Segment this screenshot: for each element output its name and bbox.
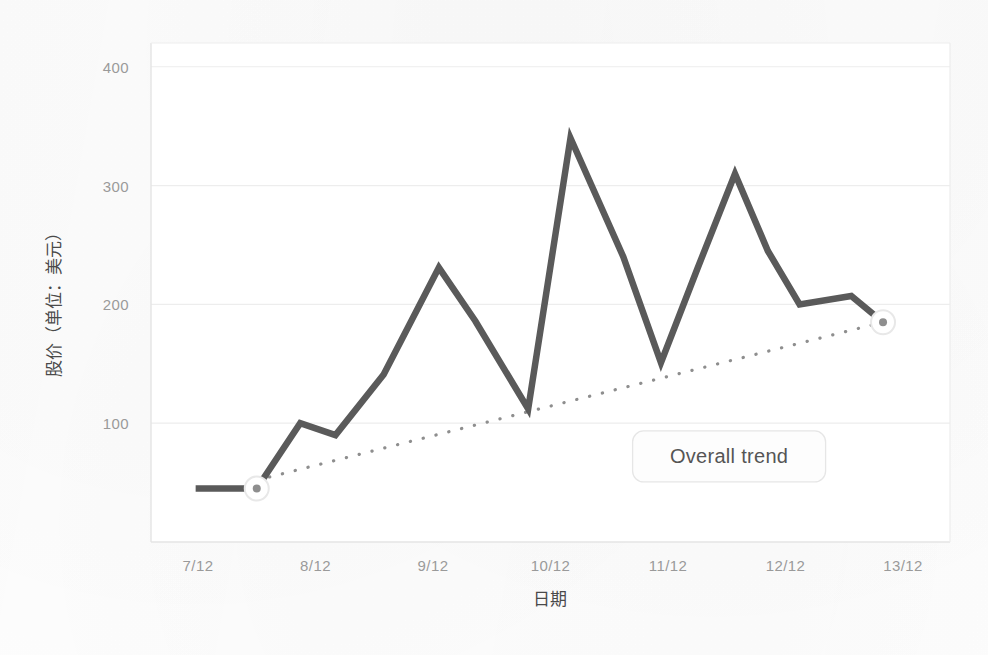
y-tick-label: 100 [103,415,129,432]
x-tick-label: 7/12 [183,557,214,574]
y-axis-tick-labels: 100200300400 [103,59,129,432]
x-tick-label: 11/12 [649,557,687,574]
y-tick-label: 200 [103,296,129,313]
y-tick-label: 400 [103,59,129,76]
overall-trend-callout[interactable]: Overall trend [633,431,826,482]
x-tick-label: 12/12 [766,557,806,574]
chart-page: 100200300400 7/128/129/1210/1211/1212/12… [0,0,988,655]
end-marker-dot [879,318,887,326]
x-tick-label: 8/12 [300,557,331,574]
x-tick-label: 13/12 [883,557,923,574]
y-axis-title: 股价（单位：美元） [45,224,64,377]
x-tick-label: 10/12 [531,557,571,574]
y-tick-label: 300 [103,178,129,195]
x-axis-title: 日期 [533,590,567,609]
start-marker-dot [253,485,261,493]
stock-price-line-chart: 100200300400 7/128/129/1210/1211/1212/12… [0,0,988,655]
trend-label-text: Overall trend [670,445,788,467]
x-tick-label: 9/12 [418,557,449,574]
x-axis-tick-labels: 7/128/129/1210/1211/1212/1213/12 [183,557,923,574]
